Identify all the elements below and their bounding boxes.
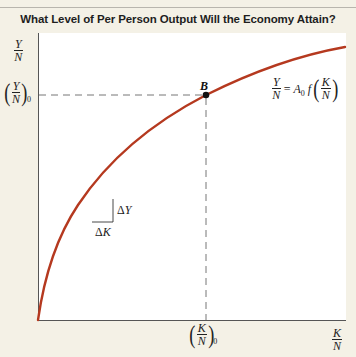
- delta-k-label: ΔK: [95, 225, 111, 240]
- production-function-equation: YN = A0 f ( KN ): [272, 76, 340, 102]
- x-axis-label: KN: [332, 327, 342, 353]
- x-tick-label: ( KN ) 0: [188, 322, 217, 348]
- y-axis-label: YN: [14, 38, 23, 64]
- slope-triangle: [92, 199, 113, 222]
- chart-svg: [0, 0, 356, 357]
- point-b-label: B: [200, 79, 208, 94]
- y-tick-label: ( YN ) 0: [3, 80, 31, 106]
- delta-y-label: ΔY: [117, 203, 131, 218]
